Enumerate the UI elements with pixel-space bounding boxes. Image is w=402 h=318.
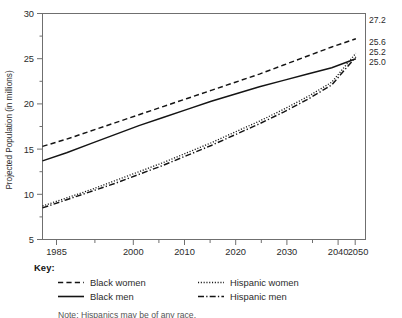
y-tick-20: 20 xyxy=(24,99,34,109)
x-axis-ticks xyxy=(57,240,356,246)
series-end-labels: 27.2 25.6 25.2 25.0 xyxy=(369,15,386,67)
x-axis-tick-labels: 1985 2000 2010 2020 2030 2040 2050 xyxy=(46,247,368,257)
end-label-hispanic-women: 25.6 xyxy=(369,37,386,47)
chart-figure: Projected Population (in millions) 30 25… xyxy=(0,0,402,318)
y-tick-5: 5 xyxy=(29,235,34,245)
dash-dot-line-icon xyxy=(198,292,224,301)
series-black-women xyxy=(43,39,356,147)
chart-footnote: Note: Hispanics may be of any race. xyxy=(58,310,196,318)
legend-label-black-men: Black men xyxy=(90,291,134,302)
end-label-hispanic-men: 25.2 xyxy=(369,47,386,57)
x-tick-2010: 2010 xyxy=(174,247,195,257)
dashed-line-icon xyxy=(58,278,84,287)
y-axis-tick-labels: 30 25 20 15 10 5 xyxy=(24,9,34,245)
legend-label-black-women: Black women xyxy=(90,277,146,288)
solid-line-icon xyxy=(58,292,84,301)
end-label-black-men: 25.0 xyxy=(369,57,386,67)
x-tick-2020: 2020 xyxy=(225,247,246,257)
x-tick-1985: 1985 xyxy=(46,247,67,257)
chart-legend: Key: Black women Hispanic women xyxy=(34,262,394,304)
series-hispanic-men xyxy=(43,57,356,208)
series-paths xyxy=(43,39,356,208)
x-tick-2030: 2030 xyxy=(277,247,298,257)
y-axis-label: Projected Population (in millions) xyxy=(5,70,14,190)
legend-row: Black men Hispanic men xyxy=(58,290,394,302)
legend-item-black-men: Black men xyxy=(58,291,198,302)
plot-frame xyxy=(43,14,366,240)
series-hispanic-women xyxy=(43,53,356,206)
legend-entries: Black women Hispanic women Black men xyxy=(58,276,394,302)
legend-title: Key: xyxy=(34,262,394,273)
legend-row: Black women Hispanic women xyxy=(58,276,394,288)
end-label-black-women: 27.2 xyxy=(369,15,386,25)
legend-item-hispanic-women: Hispanic women xyxy=(198,277,299,288)
x-tick-2050: 2050 xyxy=(348,247,369,257)
x-tick-2000: 2000 xyxy=(123,247,144,257)
series-black-men xyxy=(43,59,356,161)
legend-item-black-women: Black women xyxy=(58,277,198,288)
legend-item-hispanic-men: Hispanic men xyxy=(198,291,287,302)
y-axis-ticks xyxy=(37,14,43,240)
legend-label-hispanic-men: Hispanic men xyxy=(230,291,287,302)
y-tick-30: 30 xyxy=(24,9,34,19)
y-tick-15: 15 xyxy=(24,145,34,155)
y-tick-25: 25 xyxy=(24,54,34,64)
dotted-line-icon xyxy=(198,278,224,287)
legend-label-hispanic-women: Hispanic women xyxy=(230,277,299,288)
x-tick-2040: 2040 xyxy=(328,247,349,257)
y-tick-10: 10 xyxy=(24,190,34,200)
